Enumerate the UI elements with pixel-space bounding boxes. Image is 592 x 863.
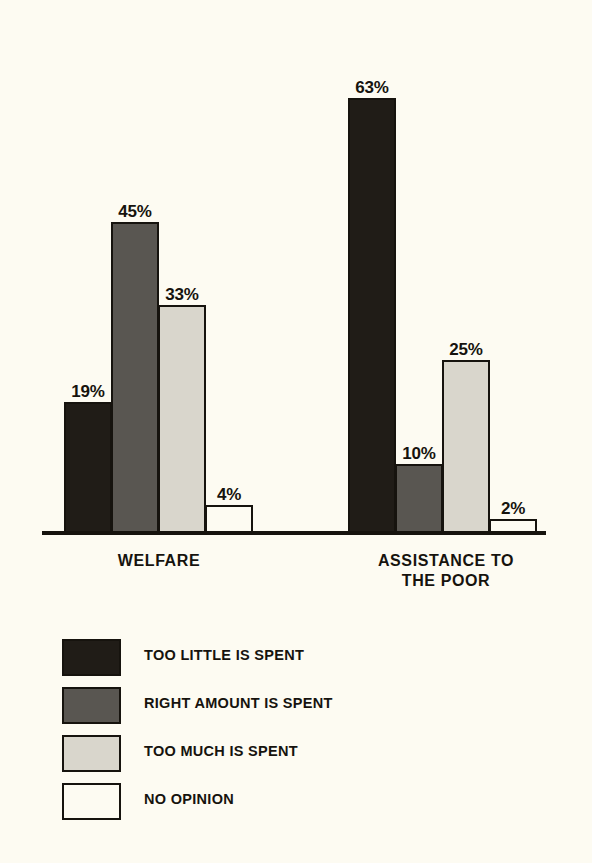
bar-slot: 33% [158,73,206,533]
bar-welfare-too-much[interactable]: 33% [158,305,206,533]
bar-welfare-too-little[interactable]: 19% [64,402,112,533]
bar-assistance-too-much[interactable]: 25% [442,360,490,533]
bar-assistance-too-little[interactable]: 63% [348,98,396,533]
legend-swatch-icon [62,639,121,676]
bar-group-welfare: 19% 45% 33% 4% [64,73,252,533]
legend-swatch-icon [62,783,121,820]
bar-value-label: 19% [71,383,104,400]
bar-slot: 25% [442,73,490,533]
bar-value-label: 63% [355,79,388,96]
legend-item-label: RIGHT AMOUNT IS SPENT [144,696,333,711]
bar-value-label: 10% [402,445,435,462]
legend-item-label: TOO LITTLE IS SPENT [144,648,304,663]
legend-item-right-amount-is-spent[interactable]: RIGHT AMOUNT IS SPENT [62,686,522,734]
legend-item-no-opinion[interactable]: NO OPINION [62,782,522,830]
legend-item-label: TOO MUCH IS SPENT [144,744,298,759]
bar-slot: 10% [395,73,443,533]
category-label-welfare: WELFARE [64,551,254,571]
legend-item-too-little-is-spent[interactable]: TOO LITTLE IS SPENT [62,638,522,686]
bar-value-label: 45% [118,203,151,220]
bar-assistance-no-opinion[interactable]: 2% [489,519,537,533]
bar-value-label: 33% [165,286,198,303]
bar-value-label: 4% [217,486,241,503]
bar-slot: 63% [348,73,396,533]
bar-value-label: 2% [501,500,525,517]
bar-welfare-right-amount[interactable]: 45% [111,222,159,533]
category-label-line2: THE POOR [348,571,544,591]
legend-item-label: NO OPINION [144,792,234,807]
category-label-line1: ASSISTANCE TO [348,551,544,571]
legend-item-too-much-is-spent[interactable]: TOO MUCH IS SPENT [62,734,522,782]
bar-welfare-no-opinion[interactable]: 4% [205,505,253,533]
bar-chart: 19% 45% 33% 4% 6 [0,0,592,863]
bar-slot: 19% [64,73,112,533]
bar-value-label: 25% [449,341,482,358]
legend-swatch-icon [62,687,121,724]
bar-group-assistance-to-the-poor: 63% 10% 25% 2% [348,73,536,533]
bar-slot: 4% [205,73,253,533]
bar-slot: 45% [111,73,159,533]
plot-area: 19% 45% 33% 4% 6 [0,0,592,545]
bar-slot: 2% [489,73,537,533]
bar-assistance-right-amount[interactable]: 10% [395,464,443,533]
category-label-line1: WELFARE [64,551,254,571]
category-label-assistance-to-the-poor: ASSISTANCE TO THE POOR [348,551,544,592]
legend-swatch-icon [62,735,121,772]
legend: TOO LITTLE IS SPENT RIGHT AMOUNT IS SPEN… [62,638,522,830]
